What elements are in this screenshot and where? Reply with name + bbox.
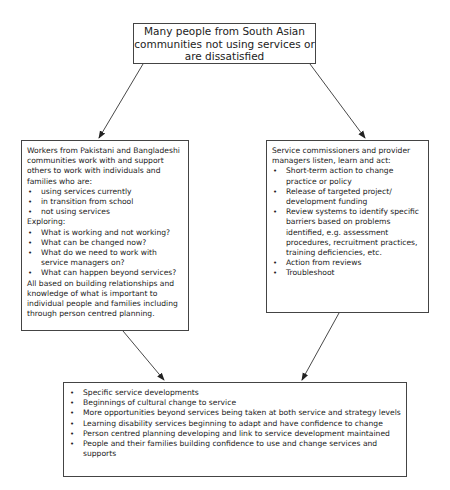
list-item: Release of targeted project/ development… xyxy=(272,187,424,207)
list-item: What can be changed now? xyxy=(27,238,184,248)
outcomes-list: Specific service developments Beginnings… xyxy=(69,388,402,459)
commissioners-box: Service commissioners and provider manag… xyxy=(266,140,429,313)
list-item: Action from reviews xyxy=(272,258,424,268)
list-item: People and their families building confi… xyxy=(69,439,402,459)
list-item: not using services xyxy=(27,207,184,217)
list-item: What can happen beyond services? xyxy=(27,268,184,278)
questions-list: What is working and not working? What ca… xyxy=(27,228,184,279)
arrow-right-to-bottom xyxy=(302,313,339,380)
workers-intro: Workers from Pakistani and Bangladeshi c… xyxy=(27,146,184,187)
list-item: More opportunities beyond services being… xyxy=(69,408,402,418)
outcomes-box: Specific service developments Beginnings… xyxy=(63,382,407,477)
list-item: in transition from school xyxy=(27,197,184,207)
groups-list: using services currently in transition f… xyxy=(27,187,184,218)
arrow-left-to-bottom xyxy=(123,331,164,380)
list-item: Beginnings of cultural change to service xyxy=(69,398,402,408)
list-item: Troubleshoot xyxy=(272,268,424,278)
exploring-label: Exploring: xyxy=(27,217,184,227)
commissioners-intro: Service commissioners and provider manag… xyxy=(272,146,424,166)
problem-text: Many people from South Asian communities… xyxy=(134,25,315,63)
community-workers-box: Workers from Pakistani and Bangladeshi c… xyxy=(21,140,189,331)
list-item: using services currently xyxy=(27,187,184,197)
list-item: What do we need to work with service man… xyxy=(27,248,184,268)
arrow-top-to-right xyxy=(310,64,365,138)
arrow-top-to-left xyxy=(99,64,143,138)
list-item: Short-term action to change practice or … xyxy=(272,166,424,186)
list-item: Specific service developments xyxy=(69,388,402,398)
workers-conclusion: All based on building relationships and … xyxy=(27,279,184,320)
list-item: What is working and not working? xyxy=(27,228,184,238)
actions-list: Short-term action to change practice or … xyxy=(272,166,424,278)
problem-box: Many people from South Asian communities… xyxy=(133,23,316,64)
list-item: Learning disability services beginning t… xyxy=(69,419,402,429)
list-item: Review systems to identify specific barr… xyxy=(272,207,424,258)
list-item: Person centred planning developing and l… xyxy=(69,429,402,439)
